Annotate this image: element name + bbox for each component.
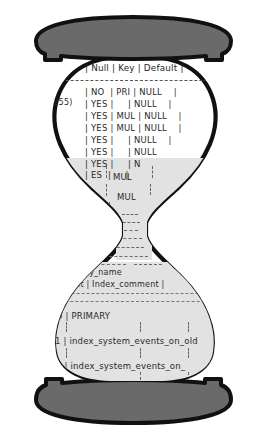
hourglass-glass [0,0,267,436]
bottom-cap [36,379,231,423]
top-cap [36,17,231,60]
glass-body [53,56,216,381]
hourglass-illustration: | Null | Key | Default | ) (255) | NO | … [0,0,267,436]
